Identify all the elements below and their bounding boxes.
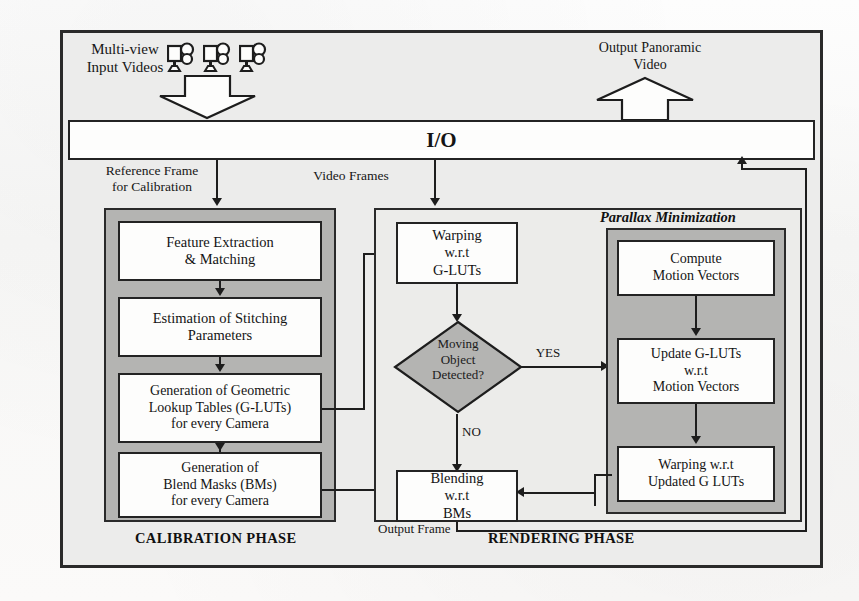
line-2: w.r.t [684, 363, 708, 378]
line-1: Generation of Geometric [150, 383, 290, 398]
phase-label-rendering: RENDERING PHASE [488, 530, 635, 547]
camera-icon-group [167, 40, 269, 76]
yes-label: YES [528, 345, 568, 361]
connector-io-to-rendering-arrowhead [430, 198, 440, 206]
calibration-block-estimation-stitching-text: Estimation of Stitching Parameters [149, 310, 292, 344]
rendering-block-warping-glut[interactable]: Warping w.r.t G-LUTs [396, 222, 518, 284]
output-frame-label: Output Frame [378, 521, 478, 537]
io-bar-label: I/O [422, 128, 460, 153]
calibration-block-generation-bm[interactable]: Generation of Blend Masks (BMs) for ever… [118, 452, 322, 518]
parallax-block-compute-motion-vectors[interactable]: Compute Motion Vectors [617, 240, 775, 296]
connector-warping-updated-to-blending-v1 [594, 474, 596, 506]
phase-label-calibration-text: CALIBRATION PHASE [135, 530, 297, 546]
multiview-input-label-line1: Multi-view [75, 40, 175, 58]
connector-warping-updated-to-blending-h1 [594, 474, 612, 476]
line-2: w.r.t [445, 487, 470, 503]
output-panoramic-label-line2: Video [570, 57, 730, 74]
parallax-block-warping-updated-glut[interactable]: Warping w.r.t Updated G LUTs [617, 446, 775, 502]
connector-warping-updated-to-blending-arrowhead [516, 487, 524, 497]
phase-label-rendering-text: RENDERING PHASE [488, 530, 635, 546]
line-1: Update G-LUTs [651, 346, 741, 361]
decision-line-1: Moving [398, 336, 518, 352]
parallax-minimization-title-text: Parallax Minimization [600, 209, 736, 225]
line-1: Feature Extraction [166, 234, 274, 250]
output-panoramic-label: Output Panoramic Video [570, 40, 730, 74]
line-2: Motion Vectors [653, 268, 739, 283]
parallax-block-warping-updated-glut-text: Warping w.r.t Updated G LUTs [644, 457, 748, 490]
output-big-up-arrow [590, 78, 710, 122]
connector-decision-yes [521, 366, 605, 368]
calibration-block-estimation-stitching[interactable]: Estimation of Stitching Parameters [118, 297, 322, 357]
connector-output-frame-v2 [805, 168, 807, 532]
yes-label-text: YES [536, 345, 561, 360]
connector-glut-to-bm-arrowhead [215, 443, 225, 451]
line-2: w.r.t [445, 244, 470, 260]
parallax-minimization-title: Parallax Minimization [600, 209, 736, 226]
connector-io-to-calibration [216, 160, 218, 200]
calibration-block-generation-bm-text: Generation of Blend Masks (BMs) for ever… [159, 460, 281, 510]
connector-compute-to-update [695, 296, 697, 330]
calibration-block-feature-extraction-text: Feature Extraction & Matching [162, 234, 278, 268]
calibration-block-generation-glut-text: Generation of Geometric Lookup Tables (G… [145, 383, 295, 433]
rendering-block-blending-bm[interactable]: Blending w.r.t BMs [396, 470, 518, 522]
output-panoramic-label-line1: Output Panoramic [570, 40, 730, 57]
video-camera-icon [239, 40, 269, 76]
connector-glut-out-v [363, 253, 365, 409]
no-label-text: NO [462, 424, 481, 439]
rendering-block-blending-bm-text: Blending w.r.t BMs [426, 470, 487, 521]
video-frames-label: Video Frames [296, 168, 406, 184]
parallax-block-update-glut[interactable]: Update G-LUTs w.r.t Motion Vectors [617, 338, 775, 404]
rendering-block-warping-glut-text: Warping w.r.t G-LUTs [428, 227, 486, 278]
line-1: Warping w.r.t [658, 457, 733, 472]
video-frames-label-text: Video Frames [296, 168, 406, 184]
io-bar[interactable]: I/O [68, 120, 815, 160]
parallax-block-compute-motion-vectors-text: Compute Motion Vectors [649, 251, 743, 284]
connector-compute-to-update-arrowhead [691, 328, 701, 336]
connector-decision-no [456, 414, 458, 468]
connector-io-to-rendering [434, 160, 436, 200]
line-3: G-LUTs [433, 262, 481, 278]
decision-line-3: Detected? [398, 367, 518, 383]
line-2: & Matching [185, 251, 255, 267]
calibration-block-feature-extraction[interactable]: Feature Extraction & Matching [118, 221, 322, 281]
line-1: Blending [430, 470, 483, 486]
connector-estimation-to-glut-arrowhead [215, 364, 225, 372]
connector-warping-updated-to-blending-h2 [520, 492, 596, 494]
line-2: Blend Masks (BMs) [163, 477, 277, 492]
connector-warping-to-decision [456, 284, 458, 317]
input-big-down-arrow [155, 76, 275, 120]
multiview-input-label: Multi-view Input Videos [75, 40, 175, 76]
line-2: Parameters [188, 327, 252, 343]
connector-io-to-calibration-arrowhead [212, 198, 222, 206]
reference-frame-label-line1: Reference Frame [92, 163, 212, 179]
connector-output-frame-to-io-arrowhead [737, 156, 747, 164]
reference-frame-label: Reference Frame for Calibration [92, 163, 212, 195]
phase-label-calibration: CALIBRATION PHASE [135, 530, 297, 547]
parallax-block-update-glut-text: Update G-LUTs w.r.t Motion Vectors [647, 346, 745, 396]
connector-glut-out-h [322, 408, 365, 410]
connector-output-frame-to-io-h [741, 168, 807, 170]
line-1: Generation of [181, 460, 258, 475]
output-frame-label-text: Output Frame [378, 521, 451, 536]
multiview-input-label-line2: Input Videos [75, 58, 175, 76]
line-1: Compute [670, 251, 721, 266]
diagram-page: Multi-view Input Videos [0, 0, 859, 601]
line-1: Estimation of Stitching [153, 310, 288, 326]
reference-frame-label-line2: for Calibration [92, 179, 212, 195]
line-1: Warping [432, 227, 482, 243]
calibration-block-generation-glut[interactable]: Generation of Geometric Lookup Tables (G… [118, 373, 322, 443]
decision-moving-object-detected-label: Moving Object Detected? [398, 336, 518, 383]
line-3: for every Camera [171, 416, 269, 431]
line-3: for every Camera [171, 493, 269, 508]
connector-update-to-warping [695, 404, 697, 438]
line-3: BMs [443, 505, 471, 521]
no-label: NO [462, 424, 496, 440]
connector-feature-to-estimation-arrowhead [215, 288, 225, 296]
line-3: Motion Vectors [653, 379, 739, 394]
line-2: Updated G LUTs [648, 474, 744, 489]
connector-update-to-warping-arrowhead [691, 436, 701, 444]
video-camera-icon [203, 40, 233, 76]
line-2: Lookup Tables (G-LUTs) [149, 400, 291, 415]
video-camera-icon [167, 40, 197, 76]
decision-line-2: Object [398, 352, 518, 368]
